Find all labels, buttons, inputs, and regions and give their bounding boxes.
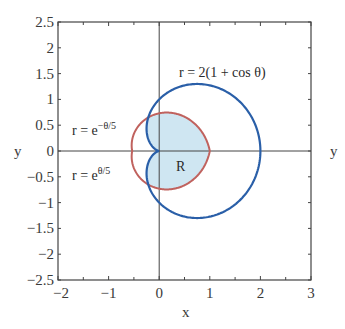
y-tick-label: −2 — [38, 246, 54, 262]
y-tick-label: 2.5 — [35, 14, 54, 30]
region-r-label: R — [176, 159, 186, 174]
exp-pos-label: r = eθ/5 — [72, 165, 110, 183]
y-tick-label: 2 — [47, 40, 55, 56]
x-tick-label: 1 — [206, 285, 214, 301]
y-tick-label: −1 — [38, 195, 54, 211]
cardioid-label: r = 2(1 + cos θ) — [179, 65, 266, 81]
y-axis-label-left: y — [14, 143, 22, 159]
labels: y y x r = 2(1 + cos θ) r = e−θ/5 r = eθ/… — [14, 14, 338, 320]
x-tick-label: −2 — [53, 285, 69, 301]
y-tick-label: −0.5 — [27, 169, 54, 185]
y-axis-label-right: y — [330, 143, 338, 159]
y-tick-label: 0.5 — [35, 117, 54, 133]
x-tick-label: 0 — [155, 285, 163, 301]
y-tick-label: 1 — [47, 91, 55, 107]
exp-neg-label: r = e−θ/5 — [72, 120, 116, 138]
y-tick-label: 0 — [47, 143, 55, 159]
x-axis-label: x — [182, 304, 190, 320]
y-tick-label: −1.5 — [27, 220, 54, 236]
x-tick-label: 2 — [257, 285, 265, 301]
x-tick-label: −1 — [101, 285, 117, 301]
y-tick-label: 1.5 — [35, 66, 54, 82]
axes — [58, 22, 311, 280]
x-tick-label: 3 — [307, 285, 315, 301]
y-tick-label: −2.5 — [27, 272, 54, 288]
polar-plot: y y x r = 2(1 + cos θ) r = e−θ/5 r = eθ/… — [0, 0, 345, 329]
